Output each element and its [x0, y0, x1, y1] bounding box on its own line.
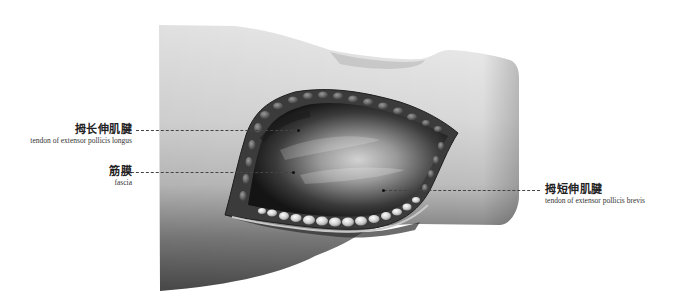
- pointer-dot-epl: [297, 129, 300, 132]
- label-en: tendon of extensor pollicis longus: [30, 136, 132, 145]
- anatomy-illustration: [0, 0, 686, 305]
- label-zh: 拇长伸肌腱: [30, 123, 132, 136]
- label-en: fascia: [109, 178, 132, 187]
- label-zh: 筋膜: [109, 165, 132, 178]
- label-fascia: 筋膜 fascia: [109, 165, 132, 187]
- leader-line-epl: [136, 130, 298, 131]
- leader-line-fascia: [116, 172, 293, 173]
- pointer-dot-epb: [382, 189, 385, 192]
- label-extensor-pollicis-brevis: 拇短伸肌腱 tendon of extensor pollicis brevis: [545, 183, 645, 205]
- label-extensor-pollicis-longus: 拇长伸肌腱 tendon of extensor pollicis longus: [30, 123, 132, 145]
- label-en: tendon of extensor pollicis brevis: [545, 196, 645, 205]
- pointer-dot-fascia: [292, 171, 295, 174]
- leader-line-epb: [384, 190, 540, 191]
- label-zh: 拇短伸肌腱: [545, 183, 645, 196]
